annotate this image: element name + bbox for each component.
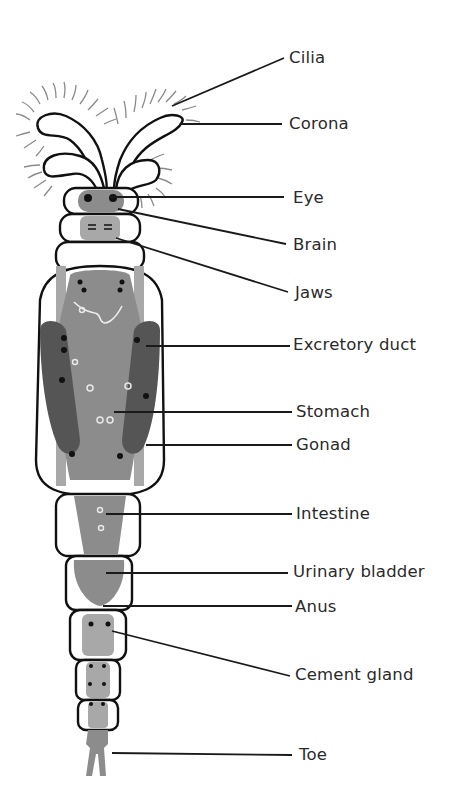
label-anus: Anus <box>295 599 337 616</box>
label-intestine: Intestine <box>296 506 370 523</box>
label-toe: Toe <box>299 747 327 764</box>
toe <box>86 730 108 776</box>
label-eye: Eye <box>293 190 324 207</box>
label-cilia: Cilia <box>289 50 325 67</box>
label-stomach: Stomach <box>296 404 370 421</box>
posterior-segments <box>56 494 140 730</box>
label-corona: Corona <box>289 116 349 133</box>
corona <box>37 114 182 192</box>
label-cement-gland: Cement gland <box>295 667 414 684</box>
label-urinary-bladder: Urinary bladder <box>293 564 425 581</box>
label-jaws: Jaws <box>295 285 333 302</box>
trunk <box>36 266 164 496</box>
head-segments <box>56 188 144 270</box>
label-gonad: Gonad <box>296 437 351 454</box>
label-excretory-duct: Excretory duct <box>293 337 416 354</box>
label-brain: Brain <box>293 237 337 254</box>
